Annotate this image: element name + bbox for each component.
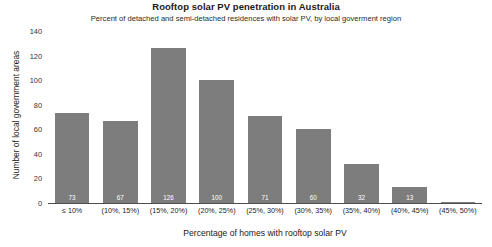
y-tick-label: 120 — [0, 51, 42, 60]
y-tick-label: 100 — [0, 76, 42, 85]
bar[interactable] — [103, 121, 138, 203]
bar-group — [441, 31, 476, 203]
bar-group: 67 — [103, 31, 138, 203]
x-axis-line — [48, 203, 482, 204]
x-tick-label: (15%, 20%) — [144, 206, 192, 215]
x-tick-label: (25%, 30%) — [241, 206, 289, 215]
bar-group: 60 — [296, 31, 331, 203]
y-tick-label: 80 — [0, 100, 42, 109]
y-tick-label: 60 — [0, 125, 42, 134]
bar-group: 73 — [55, 31, 90, 203]
x-tick-label: (35%, 40%) — [337, 206, 385, 215]
bar[interactable] — [55, 113, 90, 203]
bar-group: 32 — [344, 31, 379, 203]
chart-subtitle: Percent of detached and semi-detached re… — [0, 14, 492, 23]
bar[interactable] — [199, 80, 234, 203]
x-tick-label: (10%, 15%) — [96, 206, 144, 215]
chart-title: Rooftop solar PV penetration in Australi… — [0, 1, 492, 12]
bar-group: 13 — [392, 31, 427, 203]
x-tick-label: ≤ 10% — [48, 206, 96, 215]
y-tick-label: 0 — [0, 199, 42, 208]
bar-group: 126 — [151, 31, 186, 203]
x-tick-label: (30%, 35%) — [289, 206, 337, 215]
x-tick-label: (20%, 25%) — [193, 206, 241, 215]
bar-group: 71 — [248, 31, 283, 203]
y-tick-label: 40 — [0, 149, 42, 158]
bar-chart-figure: Rooftop solar PV penetration in Australi… — [0, 0, 492, 247]
bar[interactable] — [344, 164, 379, 203]
x-axis-title: Percentage of homes with rooftop solar P… — [48, 228, 482, 238]
bar[interactable] — [392, 187, 427, 203]
bar[interactable] — [151, 48, 186, 203]
x-tick-label: (45%, 50%) — [434, 206, 482, 215]
y-tick-label: 140 — [0, 27, 42, 36]
y-tick-label: 20 — [0, 174, 42, 183]
bar[interactable] — [296, 129, 331, 203]
bar-group: 100 — [199, 31, 234, 203]
bar[interactable] — [248, 116, 283, 203]
x-tick-label: (40%, 45%) — [386, 206, 434, 215]
plot-area: 736712610071603213 — [48, 31, 482, 203]
